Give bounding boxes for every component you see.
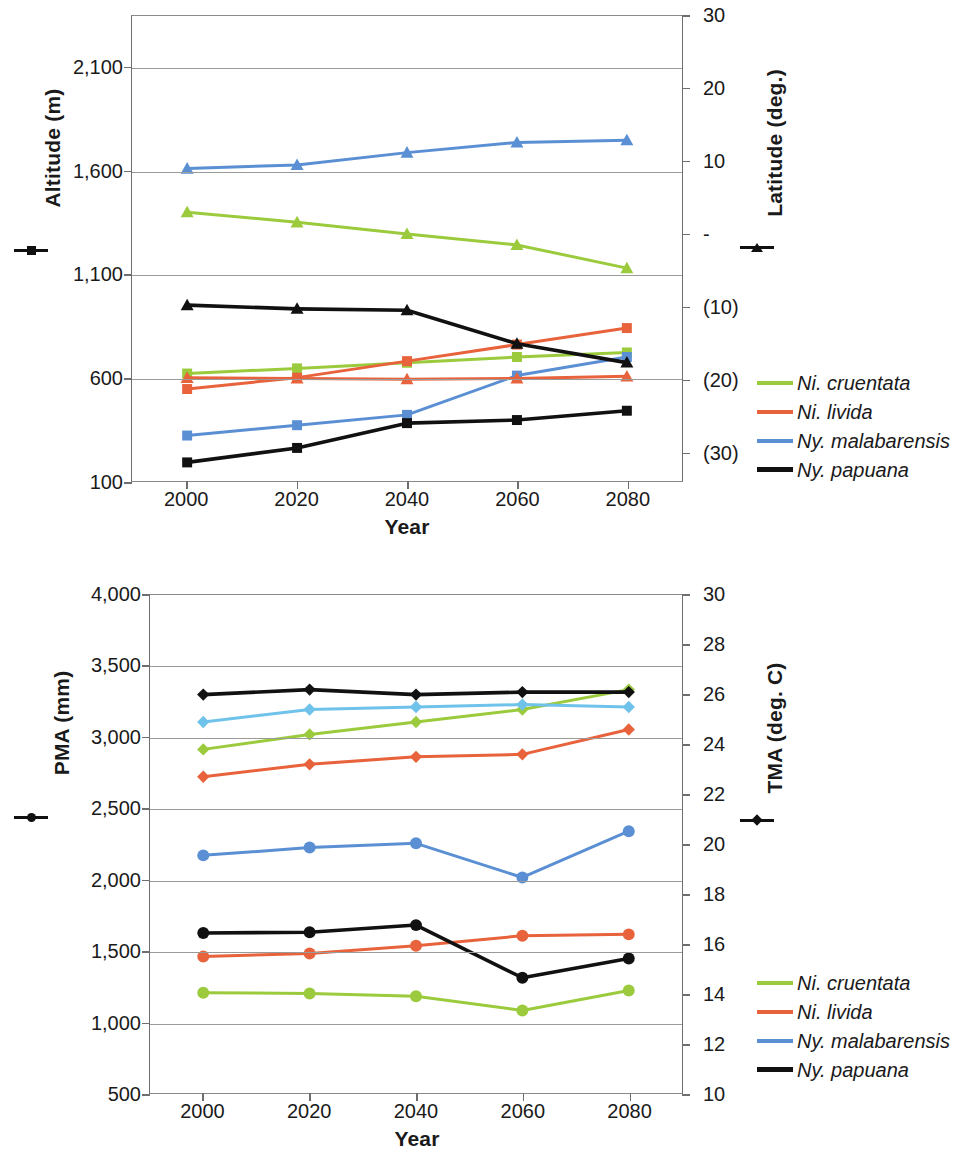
legend-item: Ni. livida xyxy=(757,997,950,1026)
data-point xyxy=(516,1004,528,1016)
data-point xyxy=(197,688,209,700)
x-axis-tick-label: 2060 xyxy=(463,1101,583,1121)
x-axis-tickmark xyxy=(416,1093,418,1101)
data-point xyxy=(516,930,528,942)
left-axis-tick-label: 2,100 xyxy=(0,57,123,77)
data-point xyxy=(197,716,209,728)
gridline xyxy=(150,738,682,739)
right-axis-tickmark xyxy=(682,161,690,163)
left-axis-tickmark xyxy=(124,378,132,380)
data-point xyxy=(401,227,414,239)
legend: Ni. cruentataNi. lividaNy. malabarensisN… xyxy=(757,368,950,484)
legend-item: Ny. malabarensis xyxy=(757,426,950,455)
data-point xyxy=(304,842,316,854)
series-ny-papuana-right xyxy=(181,299,634,368)
x-axis-title: Year xyxy=(287,515,527,539)
right-axis-tick-label: 22 xyxy=(703,784,793,804)
series-ni-cruentata-right xyxy=(181,206,634,273)
data-point xyxy=(304,987,316,999)
legend-color-swatch xyxy=(757,1067,793,1072)
left-axis-tick-label: 1,100 xyxy=(0,264,123,284)
series-ny-malabarensis-right xyxy=(197,698,635,728)
data-point xyxy=(197,987,209,999)
gridline xyxy=(150,809,682,810)
data-point xyxy=(510,238,523,250)
data-point xyxy=(402,410,412,420)
data-point xyxy=(622,406,632,416)
legend-item: Ni. livida xyxy=(757,397,950,426)
right-axis-tickmark xyxy=(682,644,690,646)
x-axis-tickmark xyxy=(297,481,299,489)
legend-item: Ny. malabarensis xyxy=(757,1026,950,1055)
series-ny-papuana-left xyxy=(182,406,632,468)
left-axis-tick-label: 1,500 xyxy=(11,941,141,961)
right-axis-tick-label: 30 xyxy=(703,584,793,604)
legend-color-swatch xyxy=(757,1039,793,1043)
figure-two-panel-chart: Altitude (m) Latitude (deg.) 2,1001,6001… xyxy=(0,0,960,1155)
data-point xyxy=(410,716,422,728)
data-point xyxy=(623,985,635,997)
x-axis-tickmark xyxy=(628,481,630,489)
series-ni-livida-left xyxy=(182,323,632,394)
data-point xyxy=(182,384,192,394)
right-axis-tickmark xyxy=(682,88,690,90)
x-axis-tick-label: 2060 xyxy=(457,489,577,509)
right-axis-tick-label: 20 xyxy=(703,834,793,854)
data-point xyxy=(516,703,528,715)
left-axis-tickmark xyxy=(142,1023,150,1025)
data-point xyxy=(620,134,633,146)
left-axis-tick-label: 3,000 xyxy=(11,727,141,747)
x-axis-tick-label: 2000 xyxy=(126,489,246,509)
series-ni-cruentata-left xyxy=(182,347,632,378)
data-point xyxy=(510,372,523,384)
gridline xyxy=(132,379,682,380)
left-axis-tickmark xyxy=(124,482,132,484)
gridline xyxy=(150,1024,682,1025)
series-ny-malabarensis-left xyxy=(197,825,634,883)
data-point xyxy=(410,940,422,952)
data-point xyxy=(623,953,635,965)
data-point xyxy=(304,926,316,938)
right-axis-tick-label: 10 xyxy=(703,1084,793,1104)
data-point xyxy=(181,206,194,218)
gridline xyxy=(150,952,682,953)
left-axis-tick-label: 1,000 xyxy=(11,1013,141,1033)
left-axis-tick-label: 100 xyxy=(0,472,123,492)
data-point xyxy=(291,158,304,170)
data-point xyxy=(197,771,209,783)
data-point xyxy=(510,136,523,148)
right-axis-tickmark xyxy=(682,307,690,309)
data-point xyxy=(410,837,422,849)
data-point xyxy=(410,688,422,700)
right-axis-tickmark xyxy=(682,380,690,382)
data-point xyxy=(291,302,304,314)
right-axis-tick-label: (10) xyxy=(703,297,793,317)
legend-label: Ny. malabarensis xyxy=(797,431,950,451)
gridline xyxy=(150,881,682,882)
right-axis-tickmark xyxy=(682,794,690,796)
series-ni-livida-right xyxy=(181,370,634,384)
legend-color-swatch xyxy=(757,410,793,414)
legend-color-swatch xyxy=(757,467,793,472)
data-point xyxy=(292,373,302,383)
x-axis-tickmark xyxy=(186,481,188,489)
left-axis-tickmark xyxy=(142,880,150,882)
right-axis-title: TMA (deg. C) xyxy=(763,578,787,878)
x-axis-tick-label: 2040 xyxy=(347,489,467,509)
left-axis-tickmark xyxy=(124,274,132,276)
series-ny-malabarensis-right xyxy=(181,134,634,174)
right-axis-tickmark xyxy=(682,1094,690,1096)
x-axis-tick-label: 2040 xyxy=(356,1101,476,1121)
data-point xyxy=(402,358,412,368)
series-ny-malabarensis-left xyxy=(182,352,632,440)
gridline xyxy=(132,172,682,173)
series-ny-papuana-right xyxy=(197,683,635,700)
legend-label: Ni. livida xyxy=(797,1002,873,1022)
legend-label: Ni. cruentata xyxy=(797,373,910,393)
data-point xyxy=(512,340,522,350)
data-point xyxy=(516,686,528,698)
data-point xyxy=(623,701,635,713)
right-axis-tick-label: 16 xyxy=(703,934,793,954)
chart-panel-altitude-latitude: Altitude (m) Latitude (deg.) 2,1001,6001… xyxy=(0,0,960,555)
data-point xyxy=(181,299,194,311)
